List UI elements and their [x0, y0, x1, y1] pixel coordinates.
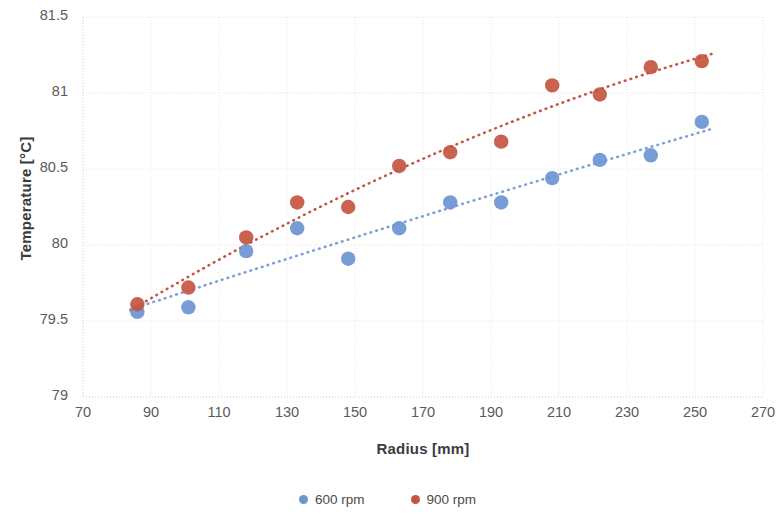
legend-marker-icon [299, 495, 308, 504]
chart-legend: 600 rpm900 rpm [0, 492, 775, 507]
data-points [130, 54, 709, 319]
gridlines [83, 17, 763, 397]
legend-marker-icon [411, 495, 420, 504]
trendlines [131, 54, 712, 310]
legend-item[interactable]: 600 rpm [299, 492, 365, 507]
legend-item[interactable]: 900 rpm [411, 492, 477, 507]
legend-label: 600 rpm [315, 492, 365, 507]
legend-label: 900 rpm [427, 492, 477, 507]
